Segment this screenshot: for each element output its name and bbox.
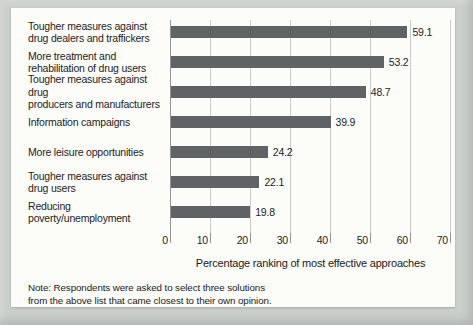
bar-row: 59.1 xyxy=(170,20,451,50)
x-axis-tick xyxy=(210,233,211,243)
x-axis-tick-label: 30 xyxy=(258,234,288,246)
category-label: Tougher measures against drug users xyxy=(28,167,168,197)
x-axis-tick xyxy=(370,233,371,243)
category-label: Reducing poverty/unemployment xyxy=(28,197,168,227)
x-axis-tick-label: 70 xyxy=(418,234,448,246)
bar-value-label: 22.1 xyxy=(264,176,284,188)
bar-row: 24.2 xyxy=(170,140,451,170)
bar-value-label: 19.8 xyxy=(255,206,275,218)
bar xyxy=(171,206,250,218)
bar-value-label: 24.2 xyxy=(273,146,293,158)
figure-note-line-1: Note: Respondents were asked to select t… xyxy=(28,281,272,294)
figure-screenshot: Tougher measures against drug dealers an… xyxy=(0,0,473,325)
bar-value-label: 39.9 xyxy=(336,116,356,128)
bar-row: 19.8 xyxy=(170,200,451,230)
x-axis-tick xyxy=(330,233,331,243)
x-axis-tick-label: 10 xyxy=(178,234,208,246)
bar-row: 53.2 xyxy=(170,50,451,80)
bar-row: 22.1 xyxy=(170,170,451,200)
x-axis-tick-label: 20 xyxy=(218,234,248,246)
category-label: Tougher measures against drug dealers an… xyxy=(28,17,168,47)
bar-chart-plot-area: 59.153.248.739.924.222.119.8 xyxy=(170,20,451,233)
x-axis-tick xyxy=(170,233,171,243)
x-axis-tick xyxy=(450,233,451,243)
bar xyxy=(171,86,366,98)
bar xyxy=(171,176,259,188)
category-label: More leisure opportunities xyxy=(28,137,168,167)
bar-value-label: 48.7 xyxy=(371,86,391,98)
chart-panel: Tougher measures against drug dealers an… xyxy=(11,8,455,307)
x-axis-title: Percentage ranking of most effective app… xyxy=(170,257,451,269)
bar xyxy=(171,26,407,38)
x-axis-tick-label: 50 xyxy=(338,234,368,246)
category-label: Tougher measures against drug producers … xyxy=(28,77,168,107)
figure-note-line-2: from the above list that came closest to… xyxy=(28,294,272,307)
category-labels-column: Tougher measures against drug dealers an… xyxy=(28,17,168,227)
bar xyxy=(171,116,331,128)
bar xyxy=(171,146,268,158)
bar-value-label: 59.1 xyxy=(412,26,432,38)
figure-note: Note: Respondents were asked to select t… xyxy=(28,281,272,307)
bar-value-label: 53.2 xyxy=(389,56,409,68)
x-axis-tick-label: 0 xyxy=(138,234,168,246)
bar xyxy=(171,56,384,68)
bar-row: 39.9 xyxy=(170,110,451,140)
bar-row: 48.7 xyxy=(170,80,451,110)
x-axis-tick-label: 40 xyxy=(298,234,328,246)
category-label: Information campaigns xyxy=(28,107,168,137)
x-axis-tick-label: 60 xyxy=(378,234,408,246)
x-axis-tick xyxy=(250,233,251,243)
x-axis-tick xyxy=(410,233,411,243)
x-axis-tick xyxy=(290,233,291,243)
